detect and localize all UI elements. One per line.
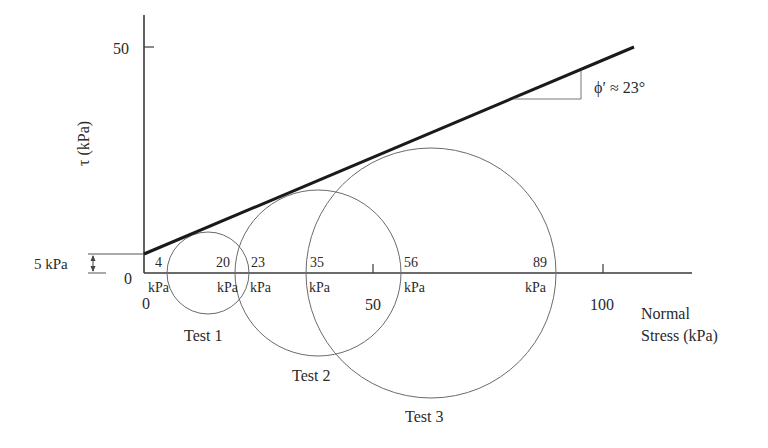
stress-unit-20: kPa (217, 281, 238, 295)
arrow-up-icon (91, 255, 96, 261)
failure-envelope (144, 47, 634, 254)
y-tick-label-50: 50 (113, 40, 129, 58)
test-2-label: Test 2 (292, 367, 330, 385)
y-tick-label-0: 0 (124, 270, 132, 288)
stress-value-20: 20 (216, 256, 230, 270)
stress-unit-4: kPa (148, 281, 169, 295)
stress-value-4: 4 (155, 256, 162, 270)
stress-unit-56: kPa (404, 281, 425, 295)
stress-unit-35: kPa (309, 281, 330, 295)
friction-angle-label: ϕ′ ≈ 23° (594, 79, 645, 97)
x-axis-label-line1: Normal (641, 305, 690, 323)
stress-value-56: 56 (404, 256, 418, 270)
arrow-down-icon (91, 266, 96, 272)
x-tick-label-50: 50 (365, 296, 381, 314)
cohesion-label: 5 kPa (34, 257, 68, 272)
x-axis-label-line2: Stress (kPa) (641, 327, 718, 345)
stress-value-23: 23 (251, 256, 265, 270)
x-tick-label-0: 0 (142, 295, 150, 313)
x-tick-label-100: 100 (590, 296, 614, 314)
stress-unit-89: kPa (525, 281, 546, 295)
stress-value-35: 35 (310, 256, 324, 270)
mohr-diagram (0, 0, 768, 448)
stress-unit-23: kPa (250, 281, 271, 295)
y-axis-label: τ (kPa) (75, 121, 93, 166)
test-1-label: Test 1 (184, 327, 222, 345)
test-3-label: Test 3 (405, 408, 443, 426)
stress-value-89: 89 (533, 256, 547, 270)
